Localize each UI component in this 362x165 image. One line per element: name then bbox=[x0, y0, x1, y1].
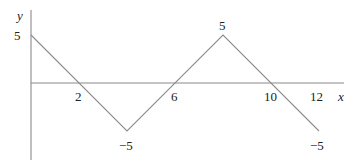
y-axis-label: y bbox=[15, 8, 23, 23]
x-tick-12: 12 bbox=[310, 89, 323, 104]
x-tick-10: 10 bbox=[264, 89, 277, 104]
line-chart: y x 5 2 6 10 12 −5 5 −5 bbox=[0, 0, 362, 165]
end-label: −5 bbox=[310, 138, 324, 153]
peak-label: 5 bbox=[219, 18, 226, 33]
x-tick-2: 2 bbox=[75, 89, 82, 104]
y-value-label-start: 5 bbox=[14, 28, 21, 43]
trough-label: −5 bbox=[119, 138, 133, 153]
x-tick-6: 6 bbox=[171, 89, 178, 104]
x-axis-label: x bbox=[337, 89, 344, 104]
